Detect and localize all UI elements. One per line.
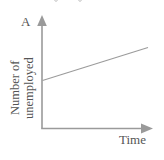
y-axis-label-line-2: unemployed — [23, 57, 36, 119]
y-axis-arrowhead-icon — [37, 15, 47, 26]
x-axis-label: Time — [119, 133, 146, 146]
y-axis-label-line-1: Number of — [9, 61, 22, 116]
trend-line-series-a — [43, 48, 149, 81]
unemployment-trend-figure: A Number of unemployed Time — [0, 0, 164, 160]
curve-label-a: A — [21, 15, 30, 28]
